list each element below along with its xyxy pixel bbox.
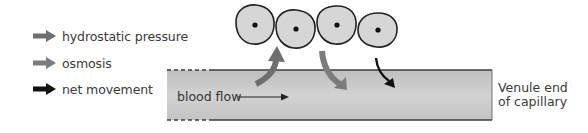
tissue-cell <box>236 5 274 44</box>
blood-flow-label: blood flow <box>177 89 241 104</box>
venule-end-label-line2: of capillary <box>498 95 568 109</box>
nucleus-icon <box>334 22 339 27</box>
venule-end-label-line1: Venule end <box>498 81 568 95</box>
tissue-cell <box>317 6 356 44</box>
nucleus-icon <box>252 22 257 27</box>
nucleus-icon <box>293 26 298 31</box>
venule-end-label: Venule end of capillary <box>498 81 568 109</box>
nucleus-icon <box>375 27 380 32</box>
tissue-cell <box>276 10 315 48</box>
capillary-diagram <box>0 0 588 133</box>
tissue-cell <box>358 13 397 47</box>
